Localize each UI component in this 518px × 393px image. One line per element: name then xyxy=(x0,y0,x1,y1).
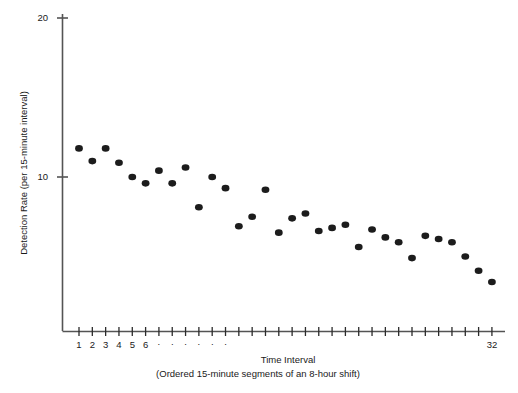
x-tick-label-9: . xyxy=(184,336,187,347)
data-point xyxy=(275,229,283,236)
x-tick-label-6: 6 xyxy=(143,339,148,350)
data-point xyxy=(235,223,243,230)
data-point xyxy=(381,234,389,241)
data-point xyxy=(102,145,110,152)
data-points-group xyxy=(75,145,496,285)
x-axis-title: Time Interval xyxy=(261,354,316,365)
x-tick-label-3: 3 xyxy=(103,339,108,350)
data-point xyxy=(328,225,336,232)
data-point xyxy=(421,233,429,240)
data-point xyxy=(88,158,96,165)
x-tick-label-2: 2 xyxy=(90,339,95,350)
data-point xyxy=(168,180,176,187)
data-point xyxy=(435,236,443,243)
x-axis-subtitle: (Ordered 15-minute segments of an 8-hour… xyxy=(156,368,360,379)
data-point xyxy=(461,253,469,260)
data-point xyxy=(448,239,456,246)
data-point xyxy=(75,145,83,152)
x-tick-label-4: 4 xyxy=(116,339,121,350)
data-point xyxy=(262,186,270,193)
data-point xyxy=(355,244,363,251)
x-axis-tick-labels: 123456......32 xyxy=(76,336,497,350)
x-tick-label-8: . xyxy=(171,336,174,347)
data-point xyxy=(395,239,403,246)
data-point xyxy=(208,174,216,181)
x-tick-label-7: . xyxy=(158,336,161,347)
data-point xyxy=(195,204,203,211)
figure-container: 123456......32 20 10 Detection Rate (per… xyxy=(0,0,518,393)
y-tick-label-20: 20 xyxy=(37,12,48,23)
data-point xyxy=(302,210,310,217)
x-tick-label-1: 1 xyxy=(76,339,81,350)
data-point xyxy=(128,174,136,181)
data-point xyxy=(368,226,376,233)
data-point xyxy=(475,268,483,275)
data-point xyxy=(142,180,150,187)
y-tick-label-10: 10 xyxy=(37,171,48,182)
y-axis-title: Detection Rate (per 15-minute interval) xyxy=(18,91,29,255)
x-tick-label-12: . xyxy=(224,336,227,347)
data-point xyxy=(248,213,256,220)
data-point xyxy=(155,167,163,174)
data-point xyxy=(315,228,323,235)
data-point xyxy=(222,185,230,192)
data-point xyxy=(115,159,123,166)
x-tick-label-11: . xyxy=(211,336,214,347)
scatter-plot: 123456......32 20 10 Detection Rate (per… xyxy=(0,0,518,393)
data-point xyxy=(342,221,350,228)
data-point xyxy=(488,279,496,286)
data-point xyxy=(408,255,416,262)
data-point xyxy=(182,164,190,171)
x-tick-label-10: . xyxy=(198,336,201,347)
data-point xyxy=(288,215,296,222)
x-tick-label-32: 32 xyxy=(487,339,498,350)
x-tick-label-5: 5 xyxy=(130,339,135,350)
